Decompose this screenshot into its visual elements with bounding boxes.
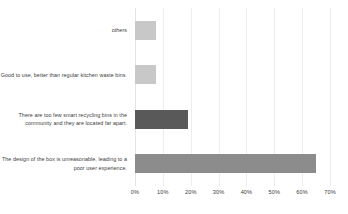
bar-row	[135, 142, 330, 187]
x-tick-label: 0%	[131, 189, 139, 195]
category-label: There are too few smart recycling bins i…	[0, 111, 131, 128]
category-label-cell: others	[0, 8, 131, 53]
category-label-cell: There are too few smart recycling bins i…	[0, 97, 131, 142]
category-label-cell: Good to use, better than regular kitchen…	[0, 53, 131, 98]
bar-good-to-use	[135, 65, 156, 84]
x-tick-label: 60%	[296, 189, 308, 195]
gridline-70%	[330, 8, 331, 186]
bar-row	[135, 8, 330, 53]
category-axis-labels: others Good to use, better than regular …	[0, 8, 131, 186]
category-label: others	[112, 26, 131, 34]
bar-design-unreasonable	[135, 154, 316, 173]
bar-too-few-bins	[135, 110, 188, 129]
x-tick-label: 10%	[157, 189, 169, 195]
x-axis-tick-labels: 0%10%20%30%40%50%60%70%	[135, 189, 330, 203]
category-label: The design of the box is unreasonable, l…	[0, 155, 131, 172]
x-tick-label: 50%	[269, 189, 281, 195]
x-tick-label: 40%	[241, 189, 253, 195]
bar-row	[135, 53, 330, 98]
plot-area	[135, 8, 330, 186]
x-tick-label: 70%	[324, 189, 336, 195]
bar-others	[135, 21, 156, 40]
x-tick-label: 20%	[185, 189, 197, 195]
bar-chart: others Good to use, better than regular …	[0, 0, 348, 214]
bar-row	[135, 97, 330, 142]
bar-series	[135, 8, 330, 186]
x-tick-label: 30%	[213, 189, 225, 195]
category-label: Good to use, better than regular kitchen…	[1, 71, 131, 79]
category-label-cell: The design of the box is unreasonable, l…	[0, 142, 131, 187]
